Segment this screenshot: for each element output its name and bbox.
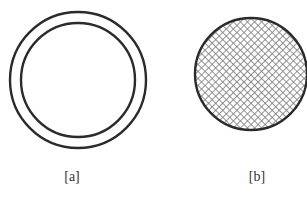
inner-ring [21,23,135,137]
diagram-canvas: [a] [b] [0,0,307,199]
outer-ring [10,12,146,148]
figure-a: [a] [10,12,146,184]
figure-b-label: [b] [249,169,265,184]
figure-a-label: [a] [64,169,80,184]
crosshatched-circle [195,18,307,130]
figure-b: [b] [195,18,307,184]
